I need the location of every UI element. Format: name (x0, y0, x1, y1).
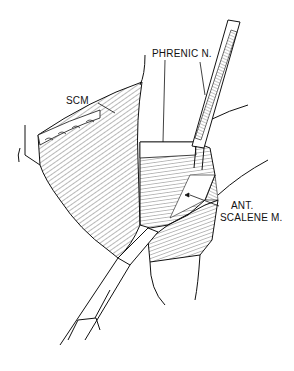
vessel-loop-retractor (192, 20, 240, 170)
anatomy-illustration: PHRENIC N. SCM ANT. SCALENE M. (0, 0, 294, 371)
anterior-label: ANT. (231, 200, 253, 211)
phrenic-nerve-label: PHRENIC N. (152, 48, 212, 59)
scalene-muscle-label: SCALENE M. (220, 212, 283, 223)
surgical-field-drawing (0, 0, 294, 371)
scm-label: SCM (66, 95, 89, 106)
scm-muscle (38, 82, 142, 258)
